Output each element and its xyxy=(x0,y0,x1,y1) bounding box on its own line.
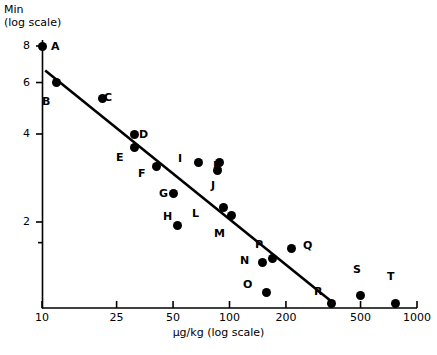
data-point-g xyxy=(169,189,178,198)
y-axis-tick-label: 2 xyxy=(8,216,30,227)
x-axis-tick-label: 1000 xyxy=(397,312,437,323)
x-axis-tick-label: 100 xyxy=(210,312,250,323)
scatter-plot: Min(log scale) µg/kg (log scale) 8642 10… xyxy=(0,0,437,355)
x-axis-tick-label: 50 xyxy=(153,312,193,323)
data-point-label-b: B xyxy=(42,96,50,107)
data-point-a xyxy=(38,42,47,51)
data-point-label-k: K xyxy=(213,160,222,171)
data-point-l xyxy=(219,203,228,212)
data-point-label-f: F xyxy=(138,168,146,179)
x-axis-tick-label: 200 xyxy=(266,312,306,323)
data-point-label-a: A xyxy=(51,41,60,52)
data-point-label-o: O xyxy=(243,279,252,290)
data-point-d xyxy=(130,130,139,139)
y-axis-tick-label: 8 xyxy=(8,40,30,51)
x-axis-tick-label: 500 xyxy=(341,312,381,323)
data-point-label-j: J xyxy=(211,180,215,191)
data-point-i xyxy=(194,158,203,167)
data-point-label-m: M xyxy=(214,228,225,239)
regression-line xyxy=(45,70,331,301)
data-point-label-d: D xyxy=(139,129,148,140)
data-point-o xyxy=(262,288,271,297)
data-point-e xyxy=(130,143,139,152)
data-point-label-e: E xyxy=(116,152,124,163)
trend-line xyxy=(45,70,331,301)
data-point-label-q: Q xyxy=(303,240,312,251)
y-axis-tick-label: 4 xyxy=(8,128,30,139)
data-point-label-n: N xyxy=(240,255,249,266)
data-point-m xyxy=(227,211,236,220)
y-axis-tick-label: 6 xyxy=(8,77,30,88)
data-point-label-g: G xyxy=(159,188,168,199)
x-axis-tick-label: 10 xyxy=(22,312,62,323)
data-point-label-i: I xyxy=(178,153,182,164)
data-point-label-s: S xyxy=(353,264,361,275)
x-axis-tick-label: 25 xyxy=(97,312,137,323)
x-axis-ticks xyxy=(42,301,417,308)
plot-frame xyxy=(0,0,437,355)
data-point-label-l: L xyxy=(192,208,199,219)
data-point-label-t: T xyxy=(387,271,395,282)
data-point-label-p: P xyxy=(255,239,263,250)
data-point-label-c: C xyxy=(104,92,112,103)
data-point-label-h: H xyxy=(163,211,172,222)
data-point-h xyxy=(173,221,182,230)
data-point-label-r: R xyxy=(314,286,322,297)
